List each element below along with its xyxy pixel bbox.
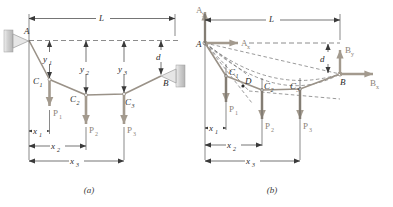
- load-label-P1-b: P 1: [229, 104, 238, 116]
- caption-a: (a): [84, 185, 95, 195]
- point-label-B-a: B: [163, 78, 169, 88]
- dimension-y2-a: y 2: [79, 41, 93, 94]
- svg-text:1: 1: [49, 60, 52, 66]
- load-label-P1-a: P 1: [53, 108, 62, 120]
- point-label-B-b: B: [340, 77, 346, 87]
- reaction-label-Ay-b: A y: [196, 5, 205, 17]
- svg-text:3: 3: [251, 162, 255, 168]
- svg-text:d: d: [320, 54, 325, 64]
- reaction-label-Bx-b: B x: [370, 78, 379, 90]
- caption-b: (b): [267, 185, 278, 195]
- svg-text:1: 1: [39, 132, 42, 138]
- dimension-x2-b: x 2: [205, 138, 262, 152]
- svg-text:P: P: [303, 121, 308, 131]
- svg-text:3: 3: [123, 70, 127, 76]
- dimension-y1-a: y 1: [42, 41, 56, 78]
- point-label-C1-a: C 1: [33, 76, 43, 88]
- svg-text:P: P: [53, 108, 58, 118]
- dimension-x1-a: x 1: [29, 124, 50, 138]
- svg-text:P: P: [229, 104, 234, 114]
- svg-text:3: 3: [133, 131, 136, 137]
- svg-text:y: y: [202, 11, 205, 17]
- dimension-d-a: d: [155, 41, 167, 75]
- svg-text:2: 2: [86, 70, 89, 76]
- point-label-C1-b: C 1: [229, 67, 239, 79]
- svg-text:y: y: [351, 51, 354, 57]
- panel-b: A B D C 1 C 2 C 3 A y A x: [195, 5, 379, 195]
- reaction-label-By-b: B y: [345, 45, 354, 57]
- engineering-figure: A B C 1 C 2 C 3 P 1 P 2 P 3: [0, 0, 393, 207]
- svg-text:2: 2: [271, 127, 274, 133]
- svg-text:1: 1: [40, 82, 43, 88]
- svg-text:x: x: [247, 44, 250, 50]
- dimension-x3-a: x 3: [29, 154, 124, 168]
- svg-text:1: 1: [235, 110, 238, 116]
- load-label-P3-a: P 3: [127, 125, 136, 137]
- svg-text:2: 2: [271, 87, 274, 93]
- dimension-x2-a: x 2: [29, 139, 86, 153]
- dimension-x3-b: x 3: [205, 154, 300, 168]
- svg-text:2: 2: [95, 131, 98, 137]
- svg-text:L: L: [98, 13, 104, 23]
- svg-text:x: x: [50, 141, 55, 151]
- svg-text:1: 1: [215, 129, 218, 135]
- point-label-C3-a: C 3: [125, 97, 135, 109]
- svg-text:P: P: [265, 121, 270, 131]
- svg-text:1: 1: [236, 73, 239, 79]
- svg-text:L: L: [268, 14, 274, 24]
- svg-text:1: 1: [59, 114, 62, 120]
- point-label-D-b: D: [244, 76, 252, 86]
- svg-text:3: 3: [131, 103, 135, 109]
- svg-text:x: x: [226, 140, 231, 150]
- svg-text:y: y: [117, 64, 122, 74]
- svg-text:x: x: [245, 156, 250, 166]
- dimension-L-a: L: [29, 11, 175, 23]
- witness-lines-a: [29, 14, 175, 160]
- reaction-arrows-A-b: [205, 12, 238, 43]
- svg-text:x: x: [69, 156, 74, 166]
- figure-container: A B C 1 C 2 C 3 P 1 P 2 P 3: [0, 0, 393, 207]
- svg-text:y: y: [42, 54, 47, 64]
- svg-text:2: 2: [77, 100, 80, 106]
- dimension-y3-a: y 3: [117, 41, 131, 93]
- point-label-A-b: A: [195, 39, 202, 49]
- load-label-P2-a: P 2: [89, 125, 98, 137]
- panel-a: A B C 1 C 2 C 3 P 1 P 2 P 3: [4, 11, 185, 195]
- point-label-C2-a: C 2: [70, 94, 80, 106]
- load-label-P3-b: P 3: [303, 121, 312, 133]
- svg-text:y: y: [79, 64, 84, 74]
- svg-text:P: P: [89, 125, 94, 135]
- svg-text:x: x: [376, 84, 379, 90]
- svg-text:3: 3: [309, 127, 312, 133]
- svg-text:d: d: [156, 52, 161, 62]
- svg-text:P: P: [127, 125, 132, 135]
- dimension-x1-b: x 1: [205, 121, 226, 135]
- reaction-label-Ax-b: A x: [241, 38, 250, 50]
- svg-text:x: x: [32, 126, 37, 136]
- point-label-C3-b: C 3: [290, 81, 300, 93]
- svg-text:2: 2: [57, 147, 60, 153]
- svg-text:2: 2: [233, 146, 236, 152]
- dimension-L-b: L: [205, 12, 340, 24]
- svg-text:x: x: [208, 123, 213, 133]
- load-label-P2-b: P 2: [265, 121, 274, 133]
- cable-nodes-b: [203, 41, 342, 92]
- dimension-d-b: d: [319, 44, 331, 73]
- svg-text:3: 3: [75, 162, 79, 168]
